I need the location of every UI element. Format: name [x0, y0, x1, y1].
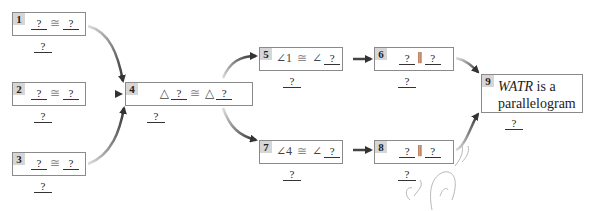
pencil-scribble — [0, 0, 589, 211]
